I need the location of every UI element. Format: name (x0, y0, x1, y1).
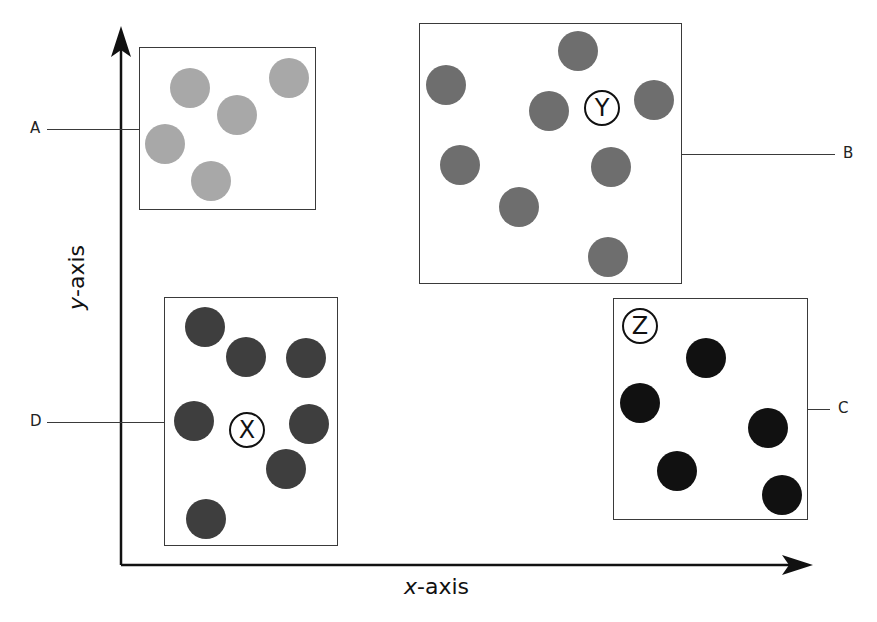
data-point (426, 65, 466, 105)
data-point (226, 337, 266, 377)
data-point (657, 451, 697, 491)
data-point (170, 68, 210, 108)
callout-line-d (47, 422, 164, 423)
callout-line-c (808, 409, 830, 410)
scatter-cluster-diagram: y-axis x-axis AYBZCXD (0, 0, 877, 622)
data-point (686, 338, 726, 378)
data-point (286, 338, 326, 378)
data-point (748, 408, 788, 448)
data-point (588, 237, 628, 277)
data-point (145, 124, 185, 164)
data-point (440, 145, 480, 185)
data-point (186, 499, 226, 539)
x-axis-label-rest: -axis (417, 574, 469, 599)
data-point (558, 31, 598, 71)
data-point (174, 401, 214, 441)
data-point (634, 80, 674, 120)
cluster-marker-x: X (229, 412, 265, 448)
x-axis-label-var: x (404, 574, 417, 599)
callout-label-c: C (838, 399, 848, 417)
data-point (185, 307, 225, 347)
data-point (217, 95, 257, 135)
callout-label-b: B (843, 144, 853, 162)
data-point (499, 187, 539, 227)
cluster-marker-y: Y (584, 90, 620, 126)
data-point (191, 161, 231, 201)
x-axis-label: x-axis (404, 574, 469, 599)
data-point (266, 449, 306, 489)
y-axis-label: y-axis (64, 245, 89, 310)
data-point (289, 404, 329, 444)
callout-label-a: A (30, 119, 40, 137)
callout-line-b (682, 154, 835, 155)
data-point (591, 147, 631, 187)
y-axis-label-rest: -axis (64, 245, 89, 297)
cluster-marker-z: Z (622, 308, 658, 344)
data-point (762, 475, 802, 515)
y-axis-label-var: y (64, 297, 89, 310)
data-point (529, 91, 569, 131)
data-point (620, 383, 660, 423)
data-point (269, 58, 309, 98)
callout-line-a (47, 129, 139, 130)
callout-label-d: D (30, 412, 42, 430)
